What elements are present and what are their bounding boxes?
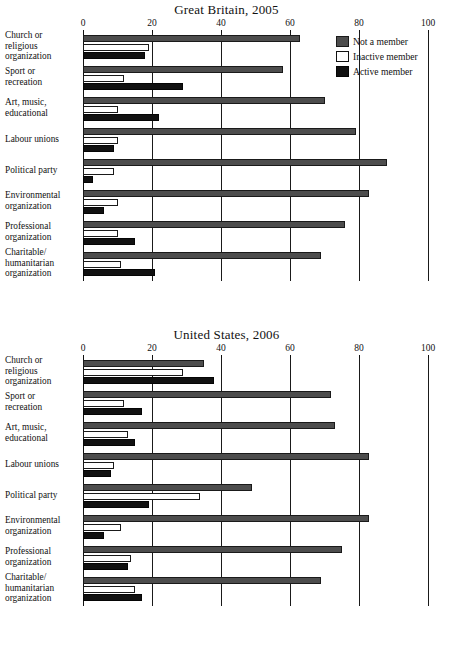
category-label-line: humanitarian	[5, 583, 80, 594]
bar-active	[83, 563, 128, 570]
category-label-line: Sport or	[5, 66, 80, 77]
category-label: Political party	[5, 490, 83, 501]
bar-notmember	[83, 252, 321, 259]
bar-active	[83, 377, 214, 384]
category-label-line: organization	[5, 526, 80, 537]
bar-group: Church orreligiousorganization	[83, 360, 453, 384]
bar-inactive	[83, 199, 118, 206]
category-label-line: Art, music,	[5, 422, 80, 433]
x-tick-label: 100	[421, 18, 435, 28]
chart-title: Great Britain, 2005	[0, 2, 453, 18]
bar-inactive	[83, 230, 118, 237]
bar-notmember	[83, 66, 283, 73]
category-label: Charitable/humanitarianorganization	[5, 572, 83, 604]
bar-inactive	[83, 462, 114, 469]
category-label: Political party	[5, 165, 83, 176]
category-label-line: humanitarian	[5, 258, 80, 269]
category-label-line: educational	[5, 433, 80, 444]
bar-group: Art, music,educational	[83, 97, 453, 121]
bar-notmember	[83, 97, 325, 104]
bar-inactive	[83, 44, 149, 51]
category-label: Sport orrecreation	[5, 66, 83, 87]
legend-item[interactable]: Not a member	[336, 34, 418, 49]
legend-item[interactable]: Active member	[336, 64, 418, 79]
bar-inactive	[83, 369, 183, 376]
x-tick-label: 60	[285, 343, 295, 353]
category-label-line: organization	[5, 593, 80, 604]
legend-swatch-inactive	[336, 51, 349, 62]
category-label-line: Professional	[5, 546, 80, 557]
bar-group: Sport orrecreation	[83, 391, 453, 415]
bar-active	[83, 238, 135, 245]
bar-inactive	[83, 400, 124, 407]
bar-active	[83, 145, 114, 152]
category-label-line: Labour unions	[5, 134, 80, 145]
bar-active	[83, 470, 111, 477]
bar-notmember	[83, 221, 345, 228]
x-tick-label: 20	[147, 343, 157, 353]
bar-notmember	[83, 128, 356, 135]
x-tick-label: 60	[285, 18, 295, 28]
category-label: Art, music,educational	[5, 97, 83, 118]
bar-active	[83, 501, 149, 508]
bar-notmember	[83, 190, 369, 197]
category-label-line: organization	[5, 232, 80, 243]
plot-area: Church orreligiousorganizationSport orre…	[0, 358, 453, 606]
bar-notmember	[83, 35, 300, 42]
category-label: Charitable/humanitarianorganization	[5, 247, 83, 279]
bar-active	[83, 532, 104, 539]
bar-inactive	[83, 524, 121, 531]
bar-active	[83, 594, 142, 601]
bar-active	[83, 114, 159, 121]
category-label-line: Art, music,	[5, 97, 80, 108]
bar-inactive	[83, 493, 200, 500]
category-label: Professionalorganization	[5, 546, 83, 567]
bar-notmember	[83, 360, 204, 367]
bar-notmember	[83, 515, 369, 522]
category-label-line: recreation	[5, 77, 80, 88]
legend-label: Not a member	[353, 36, 408, 47]
category-label-line: organization	[5, 557, 80, 568]
legend-swatch-notmember	[336, 36, 349, 47]
bar-notmember	[83, 453, 369, 460]
bar-inactive	[83, 75, 124, 82]
category-label: Professionalorganization	[5, 221, 83, 242]
bar-inactive	[83, 106, 118, 113]
bar-active	[83, 52, 145, 59]
category-label-line: organization	[5, 201, 80, 212]
bar-group: Labour unions	[83, 128, 453, 152]
bar-group: Environmentalorganization	[83, 190, 453, 214]
category-label-line: Environmental	[5, 515, 80, 526]
legend-swatch-active	[336, 66, 349, 77]
bar-active	[83, 269, 155, 276]
x-tick-label: 40	[216, 343, 226, 353]
category-label-line: Church or	[5, 355, 80, 366]
category-label-line: Church or	[5, 30, 80, 41]
bar-notmember	[83, 546, 342, 553]
bar-notmember	[83, 159, 387, 166]
category-label: Labour unions	[5, 459, 83, 470]
category-label: Church orreligiousorganization	[5, 355, 83, 387]
category-label-line: recreation	[5, 402, 80, 413]
category-label-line: educational	[5, 108, 80, 119]
legend-item[interactable]: Inactive member	[336, 49, 418, 64]
bar-inactive	[83, 137, 118, 144]
legend-label: Inactive member	[353, 51, 418, 62]
x-tick-label: 20	[147, 18, 157, 28]
bar-active	[83, 176, 93, 183]
bar-active	[83, 439, 135, 446]
bar-group: Professionalorganization	[83, 546, 453, 570]
bar-group: Charitable/humanitarianorganization	[83, 577, 453, 601]
category-label-line: religious	[5, 366, 80, 377]
category-label: Church orreligiousorganization	[5, 30, 83, 62]
bar-group: Environmentalorganization	[83, 515, 453, 539]
bar-group: Art, music,educational	[83, 422, 453, 446]
x-tick-label: 40	[216, 18, 226, 28]
x-tick-label: 80	[354, 18, 364, 28]
category-label-line: Sport or	[5, 391, 80, 402]
x-tick-label: 0	[81, 18, 86, 28]
bar-inactive	[83, 431, 128, 438]
bar-group: Labour unions	[83, 453, 453, 477]
category-label-line: Charitable/	[5, 247, 80, 258]
bar-inactive	[83, 261, 121, 268]
